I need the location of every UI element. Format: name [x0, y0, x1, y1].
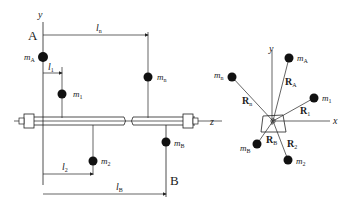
r1-label: R1	[300, 105, 310, 117]
mass-b-label: mB	[174, 138, 185, 149]
mass-b-dot	[162, 138, 171, 147]
end-mass-b-label: mB	[240, 143, 251, 154]
r2-label: R2	[287, 138, 297, 150]
end-mass-n-dot	[228, 73, 237, 82]
side-view: y A ln mA l1 m1 mn	[14, 9, 222, 197]
end-view-y-label: y	[268, 43, 274, 54]
end-view: y x mA m1 mn mB m2 RA R1 Rn RB R2	[214, 43, 338, 167]
lb-label: lB	[116, 181, 123, 193]
rn-line	[232, 77, 273, 121]
end-mass-1-label: m1	[322, 93, 332, 104]
shaft	[14, 114, 222, 128]
r1-line	[273, 98, 314, 121]
plane-a-label: A	[28, 28, 38, 43]
mass-1-label: m1	[73, 89, 83, 100]
l1-label: l1	[48, 61, 54, 73]
ln-label: ln	[96, 22, 102, 34]
mass-2-label: m2	[101, 156, 111, 167]
ra-line	[273, 58, 289, 121]
rotor-balancing-diagram: y A ln mA l1 m1 mn	[0, 0, 345, 211]
end-view-x-label: x	[332, 115, 338, 126]
end-mass-2-dot	[284, 156, 293, 165]
mass-a-label: mA	[24, 52, 36, 63]
mass-n-label: mn	[157, 72, 167, 83]
end-mass-a-label: mA	[297, 53, 309, 64]
axis-y-label: y	[37, 9, 43, 20]
end-mass-a-dot	[285, 54, 294, 63]
mass-2-dot	[89, 157, 98, 166]
mass-n-dot	[144, 73, 153, 82]
plane-b-label: B	[170, 173, 179, 188]
ra-label: RA	[285, 76, 297, 88]
mass-a-dot	[38, 52, 48, 62]
rb-label: RB	[266, 134, 277, 146]
l2-label: l2	[62, 161, 68, 173]
end-mass-b-dot	[253, 140, 262, 149]
mass-1-dot	[58, 90, 67, 99]
end-mass-n-label: mn	[214, 70, 224, 81]
end-mass-1-dot	[310, 94, 319, 103]
end-mass-2-label: m2	[296, 156, 306, 167]
axis-z-label: z	[209, 116, 214, 127]
